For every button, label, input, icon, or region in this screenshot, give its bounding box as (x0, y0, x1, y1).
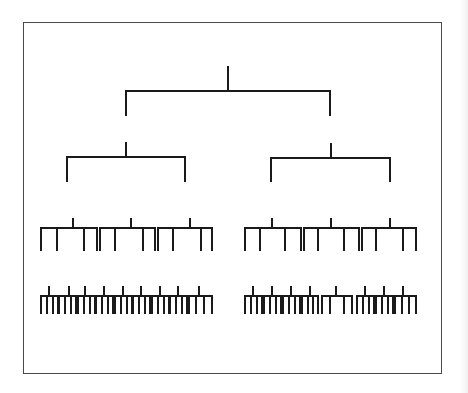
tree-diagram (0, 0, 468, 393)
